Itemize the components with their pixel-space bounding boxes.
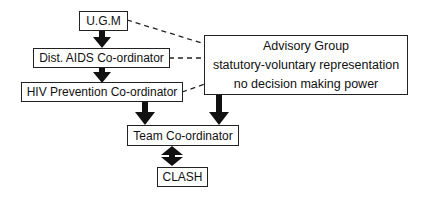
node-clash-label: CLASH [162, 170, 202, 184]
node-advisory-group: Advisory Group statutory-voluntary repre… [204, 35, 408, 95]
node-ugm-label: U.G.M [86, 14, 121, 28]
advisory-line-2: statutory-voluntary representation [213, 56, 399, 75]
node-team-label: Team Co-ordinator [133, 129, 232, 143]
node-team-coordinator: Team Co-ordinator [127, 125, 239, 146]
node-dist-aids-label: Dist. AIDS Co-ordinator [39, 51, 164, 65]
advisory-line-3: no decision making power [234, 75, 379, 94]
node-hiv-prevention-coordinator: HIV Prevention Co-ordinator [21, 82, 183, 102]
node-dist-aids-coordinator: Dist. AIDS Co-ordinator [33, 48, 170, 68]
node-clash: CLASH [157, 167, 208, 187]
advisory-title: Advisory Group [263, 37, 349, 56]
node-hiv-prevention-label: HIV Prevention Co-ordinator [27, 85, 178, 99]
dashed-hiv-advisory [182, 84, 205, 92]
node-ugm: U.G.M [79, 11, 128, 31]
dashed-ugm-advisory [127, 20, 205, 44]
